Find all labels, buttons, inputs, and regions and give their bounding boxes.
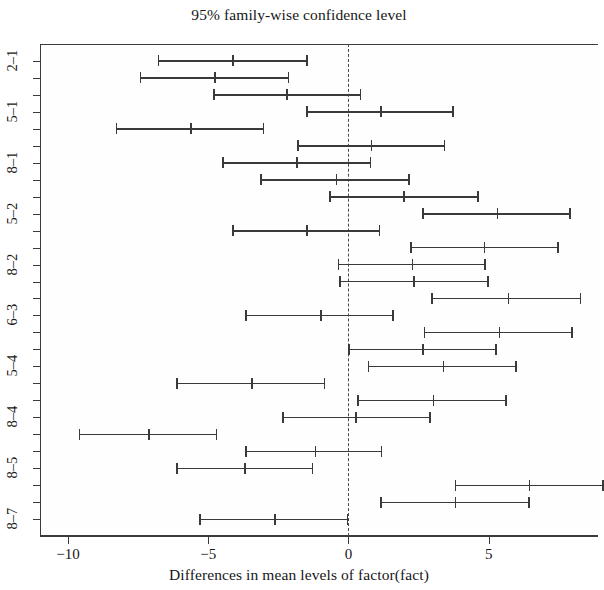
- confidence-interval: [368, 361, 517, 372]
- confidence-interval: [455, 480, 604, 491]
- interval-lower-cap: [116, 123, 117, 134]
- interval-upper-cap: [569, 208, 570, 219]
- interval-center-marker: [355, 412, 356, 423]
- confidence-interval: [260, 174, 409, 185]
- interval-center-marker: [274, 514, 275, 525]
- interval-center-marker: [244, 463, 245, 474]
- interval-upper-cap: [381, 446, 382, 457]
- y-axis-tick-label: 8–7: [4, 499, 21, 539]
- y-axis-tick: [33, 383, 41, 384]
- interval-lower-cap: [260, 174, 261, 185]
- interval-upper-cap: [487, 276, 488, 287]
- interval-lower-cap: [368, 361, 369, 372]
- x-axis-tick-label: 0: [318, 546, 378, 563]
- y-axis-tick: [33, 519, 41, 520]
- y-axis-tick-label: 5–4: [4, 346, 21, 386]
- y-axis-tick: [33, 78, 41, 79]
- confidence-interval: [422, 208, 570, 219]
- interval-upper-cap: [571, 327, 572, 338]
- interval-lower-cap: [422, 208, 423, 219]
- y-axis-tick: [33, 95, 41, 96]
- y-axis-tick: [33, 451, 41, 452]
- interval-bar: [431, 298, 580, 299]
- y-axis-tick: [33, 366, 41, 367]
- y-axis-tick: [33, 282, 41, 283]
- interval-lower-cap: [297, 140, 298, 151]
- interval-upper-cap: [347, 514, 348, 525]
- interval-upper-cap: [580, 293, 581, 304]
- interval-upper-cap: [452, 106, 453, 117]
- interval-lower-cap: [176, 378, 177, 389]
- interval-upper-cap: [408, 174, 409, 185]
- y-axis-tick: [33, 180, 41, 181]
- interval-lower-cap: [306, 106, 307, 117]
- confidence-interval: [357, 395, 506, 406]
- interval-upper-cap: [528, 497, 529, 508]
- interval-lower-cap: [222, 157, 223, 168]
- interval-center-marker: [148, 429, 149, 440]
- interval-upper-cap: [557, 242, 558, 253]
- interval-upper-cap: [515, 361, 516, 372]
- interval-center-marker: [403, 191, 404, 202]
- x-axis-tick-label: −5: [178, 546, 238, 563]
- zero-reference-line: [348, 44, 349, 536]
- y-axis-tick: [33, 214, 41, 215]
- interval-center-marker: [412, 259, 413, 270]
- x-axis-title: Differences in mean levels of factor(fac…: [0, 566, 598, 584]
- interval-center-marker: [315, 446, 316, 457]
- interval-upper-cap: [484, 259, 485, 270]
- y-axis-tick-label: 8–4: [4, 397, 21, 437]
- interval-lower-cap: [245, 446, 246, 457]
- y-axis-tick: [33, 468, 41, 469]
- interval-lower-cap: [213, 89, 214, 100]
- interval-lower-cap: [232, 225, 233, 236]
- interval-center-marker: [286, 89, 287, 100]
- confidence-interval: [348, 344, 496, 355]
- y-axis-tick: [33, 248, 41, 249]
- confidence-interval: [232, 225, 380, 236]
- y-axis-tick: [33, 197, 41, 198]
- interval-center-marker: [455, 497, 456, 508]
- interval-lower-cap: [455, 480, 456, 491]
- y-axis-tick: [33, 61, 41, 62]
- interval-upper-cap: [379, 225, 380, 236]
- interval-upper-cap: [216, 429, 217, 440]
- x-axis-tick: [68, 536, 69, 544]
- interval-lower-cap: [199, 514, 200, 525]
- confidence-interval: [431, 293, 580, 304]
- confidence-interval: [338, 259, 486, 270]
- y-axis-tick: [33, 163, 41, 164]
- y-axis-tick: [33, 417, 41, 418]
- interval-center-marker: [508, 293, 509, 304]
- interval-center-marker: [529, 480, 530, 491]
- interval-lower-cap: [245, 310, 246, 321]
- confidence-interval: [222, 157, 371, 168]
- confidence-interval: [176, 463, 313, 474]
- interval-upper-cap: [360, 89, 361, 100]
- interval-lower-cap: [348, 344, 349, 355]
- interval-lower-cap: [339, 276, 340, 287]
- interval-lower-cap: [140, 72, 141, 83]
- interval-center-marker: [336, 174, 337, 185]
- y-axis-tick: [33, 146, 41, 147]
- interval-upper-cap: [444, 140, 445, 151]
- interval-upper-cap: [370, 157, 371, 168]
- interval-lower-cap: [79, 429, 80, 440]
- confidence-interval: [213, 89, 361, 100]
- confidence-interval: [140, 72, 289, 83]
- interval-center-marker: [484, 242, 485, 253]
- interval-center-marker: [306, 225, 307, 236]
- y-axis-tick: [33, 332, 41, 333]
- interval-upper-cap: [505, 395, 506, 406]
- confidence-interval: [282, 412, 430, 423]
- interval-lower-cap: [410, 242, 411, 253]
- interval-center-marker: [499, 327, 500, 338]
- y-axis-tick-label: 2–1: [4, 40, 21, 80]
- y-axis-tick: [33, 502, 41, 503]
- interval-center-marker: [443, 361, 444, 372]
- confidence-interval: [339, 276, 488, 287]
- interval-lower-cap: [357, 395, 358, 406]
- interval-lower-cap: [424, 327, 425, 338]
- plot-area: [40, 44, 598, 536]
